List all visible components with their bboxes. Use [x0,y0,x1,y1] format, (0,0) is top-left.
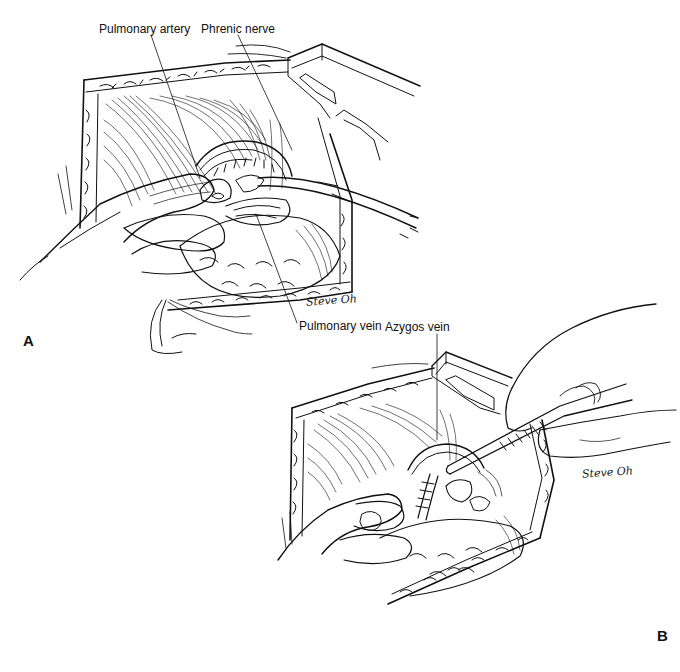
panel-b-right-hand [506,304,676,457]
label-phrenic-nerve: Phrenic nerve [201,22,275,36]
label-azygos-vein: Azygos vein [385,320,450,334]
panel-label-a: A [23,332,34,349]
label-pulmonary-artery: Pulmonary artery [99,22,190,36]
panel-b-retractor [372,352,512,414]
panel-b-scalpel [446,384,632,474]
label-pulmonary-vein: Pulmonary vein [299,319,382,333]
panel-b-left-hand [278,494,412,564]
panel-b-illustration [0,0,680,672]
panel-b-incision-frame [290,368,554,604]
panel-label-b: B [657,627,668,644]
panel-b-lower-lobe [380,516,523,596]
panel-b-pleura-hatching [308,404,456,500]
